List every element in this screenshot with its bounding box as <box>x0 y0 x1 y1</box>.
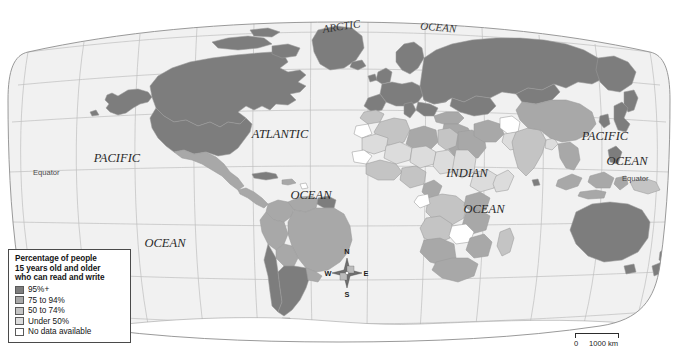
legend-entry-label: 50 to 74% <box>28 306 65 315</box>
legend-entry-label: 95%+ <box>28 285 49 294</box>
label-pacific-right-word1: PACIFIC <box>581 129 629 143</box>
legend-swatch-icon <box>15 296 24 304</box>
legend-entry: Under 50% <box>15 316 125 326</box>
legend-entry: 75 to 94% <box>15 295 125 305</box>
label-pacific-right-word2: OCEAN <box>607 154 649 168</box>
label-pacific-left-word2: OCEAN <box>145 236 187 250</box>
legend-title-line2: 15 years old and older <box>15 264 125 274</box>
legend-swatch-icon <box>15 307 24 315</box>
compass-east-label: E <box>364 269 369 278</box>
label-pacific-left-word1: PACIFIC <box>93 151 141 165</box>
compass-west-label: W <box>325 269 332 278</box>
legend-entry-label: Under 50% <box>28 317 69 326</box>
legend-entry-label: No data available <box>28 327 91 336</box>
legend-swatch-icon <box>15 328 24 336</box>
world-literacy-map: ARCTIC OCEAN ATLANTIC OCEAN PACIFIC OCEA… <box>0 0 678 360</box>
legend-entry-label: 75 to 94% <box>28 296 65 305</box>
region-western-europe <box>380 82 424 106</box>
label-equator-right: Equator <box>622 174 649 183</box>
label-atlantic-word1: ATLANTIC <box>251 127 309 141</box>
label-indian-word1: INDIAN <box>445 166 488 180</box>
scale-bar-distance: 1000 km <box>589 339 618 348</box>
legend-entry: 50 to 74% <box>15 306 125 316</box>
scale-bar-bracket <box>575 333 619 338</box>
scale-bar: 0 1000 km <box>575 333 671 353</box>
compass-north-label: N <box>344 247 349 256</box>
legend-swatch-icon <box>15 317 24 325</box>
scale-bar-zero: 0 <box>574 339 578 348</box>
compass-center <box>345 271 348 274</box>
legend-entry: 95%+ <box>15 285 125 295</box>
compass-south-label: S <box>345 290 350 299</box>
label-equator-left: Equator <box>33 168 60 177</box>
label-atlantic-word2: OCEAN <box>291 188 333 202</box>
legend-entry: No data available <box>15 326 125 336</box>
legend-title-line3: who can read and write <box>15 273 125 283</box>
legend-title-line1: Percentage of people <box>15 254 125 264</box>
label-indian-word2: OCEAN <box>464 202 506 216</box>
region-tasmania <box>624 264 636 274</box>
legend-entries: 95%+ 75 to 94% 50 to 74% Under 50% No da… <box>15 285 125 337</box>
map-legend: Percentage of people 15 years old and ol… <box>8 249 131 343</box>
legend-swatch-icon <box>15 286 24 294</box>
